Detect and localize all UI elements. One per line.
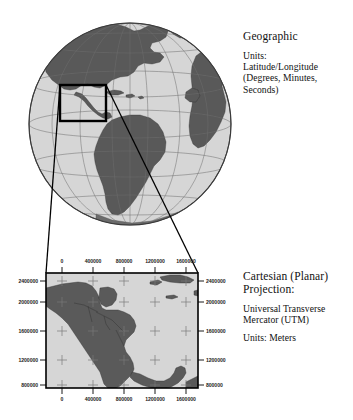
map-xtick-bottom-2: 800000 — [116, 396, 133, 402]
cartesian-heading-line-1: Cartesian (Planar) — [243, 270, 328, 282]
map-xtick-top-3: 1200000 — [145, 258, 164, 264]
map-xtick-top-2: 800000 — [116, 258, 133, 264]
cartesian-projection-line-1: Universal Transverse — [243, 303, 353, 314]
figure-root: Geographic Units: Latitude/Longitude (De… — [0, 0, 353, 420]
globe-graphic — [29, 19, 231, 229]
map-ytick-left-2000000: 2000000 — [0, 299, 38, 305]
cartesian-heading: Cartesian (Planar) Projection: — [243, 270, 353, 297]
map-ytick-left-1200000: 1200000 — [0, 357, 38, 363]
cartesian-projection-block: Universal Transverse Mercator (UTM) — [243, 303, 353, 326]
map-ytick-right-2400000: 2400000 — [206, 278, 225, 284]
cartesian-units-block: Units: Meters — [243, 332, 353, 343]
cartesian-heading-line-2: Projection: — [243, 283, 295, 295]
map-ytick-right-1600000: 1600000 — [206, 328, 225, 334]
map-xtick-bottom-1: 400000 — [85, 396, 102, 402]
cartesian-text-panel: Cartesian (Planar) Projection: Universal… — [243, 270, 353, 351]
map-ytick-left-2400000: 2400000 — [0, 278, 38, 284]
geographic-heading: Geographic — [243, 30, 353, 44]
cartesian-projection-line-2: Mercator (UTM) — [243, 314, 353, 325]
map-xtick-bottom-0: 0 — [61, 396, 64, 402]
map-xtick-bottom-4: 1600000 — [176, 396, 195, 402]
map-ytick-left-800000: 800000 — [0, 382, 38, 388]
geographic-units-block: Units: Latitude/Longitude (Degrees, Minu… — [243, 50, 353, 95]
map-xtick-top-1: 400000 — [85, 258, 102, 264]
cartesian-units-line: Units: Meters — [243, 332, 353, 343]
map-xtick-top-4: 1600000 — [176, 258, 195, 264]
geographic-text-panel: Geographic Units: Latitude/Longitude (De… — [243, 30, 353, 102]
geographic-units-line-2: (Degrees, Minutes, — [243, 72, 353, 83]
map-ytick-right-800000: 800000 — [206, 382, 223, 388]
map-ytick-right-2000000: 2000000 — [206, 299, 225, 305]
map-xtick-top-0: 0 — [61, 258, 64, 264]
utm-map-panel — [40, 267, 204, 394]
map-xtick-bottom-3: 1200000 — [145, 396, 164, 402]
map-ytick-right-1200000: 1200000 — [206, 357, 225, 363]
geographic-units-label: Units: — [243, 50, 353, 61]
geographic-units-line-3: Seconds) — [243, 84, 353, 95]
map-ytick-left-1600000: 1600000 — [0, 328, 38, 334]
geographic-units-line-1: Latitude/Longitude — [243, 61, 353, 72]
